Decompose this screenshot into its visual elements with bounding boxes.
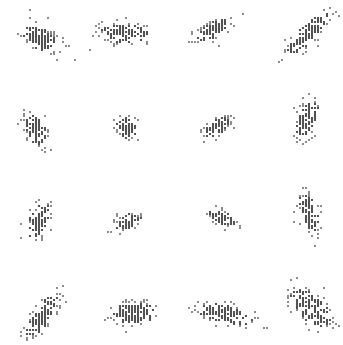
scatter-plot-matrix <box>0 0 343 345</box>
scatter-cluster-r1-c2 <box>200 115 235 143</box>
scatter-cluster-r0-c1 <box>68 17 148 51</box>
scatter-cluster-r0-c0 <box>17 9 76 61</box>
scatter-cluster-r3-c3 <box>287 277 340 333</box>
scatter-cluster-r1-c3 <box>293 93 319 145</box>
scatter-cluster-r3-c0 <box>20 285 67 341</box>
scatter-cluster-r2-c0 <box>20 199 52 241</box>
scatter-cluster-r1-c0 <box>17 109 52 153</box>
scatter-cluster-r2-c1 <box>107 213 142 235</box>
scatter-cluster-r3-c2 <box>188 301 268 329</box>
scatter-cluster-r0-c2 <box>188 13 244 47</box>
scatter-cluster-r1-c1 <box>113 115 139 141</box>
scatter-panel-grid <box>0 0 343 345</box>
scatter-cluster-r3-c1 <box>104 299 157 333</box>
scatter-cluster-r2-c2 <box>206 205 241 231</box>
scatter-cluster-r0-c3 <box>278 7 340 63</box>
scatter-cluster-r2-c3 <box>293 187 322 247</box>
